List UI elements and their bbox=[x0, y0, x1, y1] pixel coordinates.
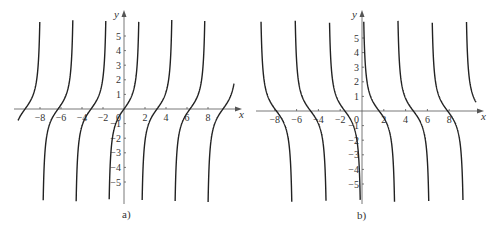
y-tick-label: −4 bbox=[110, 162, 121, 173]
x-tick-label: −8 bbox=[269, 114, 280, 125]
y-tick-label: 1 bbox=[116, 89, 121, 100]
y-tick-label: −5 bbox=[110, 177, 121, 188]
y-axis-label: y bbox=[351, 8, 357, 20]
x-axis-label: x bbox=[238, 108, 244, 120]
y-tick-label: −5 bbox=[348, 179, 359, 190]
panel-label: b) bbox=[357, 209, 367, 222]
panel-label: a) bbox=[122, 208, 131, 221]
y-tick-label: −3 bbox=[348, 149, 359, 160]
y-tick-label: 2 bbox=[116, 74, 121, 85]
y-tick-label: −4 bbox=[348, 164, 359, 175]
chart-panel-b: −8−6−4−2246854321−1−2−3−4−50xyb) bbox=[256, 8, 486, 222]
y-axis-arrow-icon bbox=[360, 10, 365, 17]
y-axis-arrow-icon bbox=[122, 10, 127, 17]
y-tick-label: −3 bbox=[110, 147, 121, 158]
x-tick-label: 2 bbox=[143, 112, 148, 123]
x-axis-label: x bbox=[480, 110, 486, 122]
y-tick-label: 4 bbox=[116, 45, 121, 56]
x-tick-label: −2 bbox=[98, 112, 109, 123]
x-tick-label: −2 bbox=[335, 114, 346, 125]
y-tick-label: 5 bbox=[116, 31, 121, 42]
x-tick-label: −8 bbox=[35, 112, 46, 123]
y-tick-label: 3 bbox=[354, 62, 359, 73]
y-tick-label: 5 bbox=[354, 33, 359, 44]
x-tick-label: 8 bbox=[206, 112, 211, 123]
function-curve bbox=[18, 20, 234, 202]
x-tick-label: 4 bbox=[403, 114, 408, 125]
y-tick-label: 2 bbox=[354, 76, 359, 87]
x-tick-label: −6 bbox=[56, 112, 67, 123]
y-tick-label: 4 bbox=[354, 47, 359, 58]
figure: −8−6−4−2246854321−1−2−3−4−50xya) −8−6−4−… bbox=[0, 0, 489, 234]
x-tick-label: −6 bbox=[291, 114, 302, 125]
x-tick-label: 6 bbox=[425, 114, 430, 125]
y-tick-label: 1 bbox=[354, 91, 359, 102]
y-axis-label: y bbox=[113, 8, 119, 20]
origin-label: 0 bbox=[354, 114, 359, 125]
chart-panel-a: −8−6−4−2246854321−1−2−3−4−50xya) bbox=[14, 8, 244, 221]
x-tick-label: 4 bbox=[164, 112, 169, 123]
y-tick-label: 3 bbox=[116, 60, 121, 71]
